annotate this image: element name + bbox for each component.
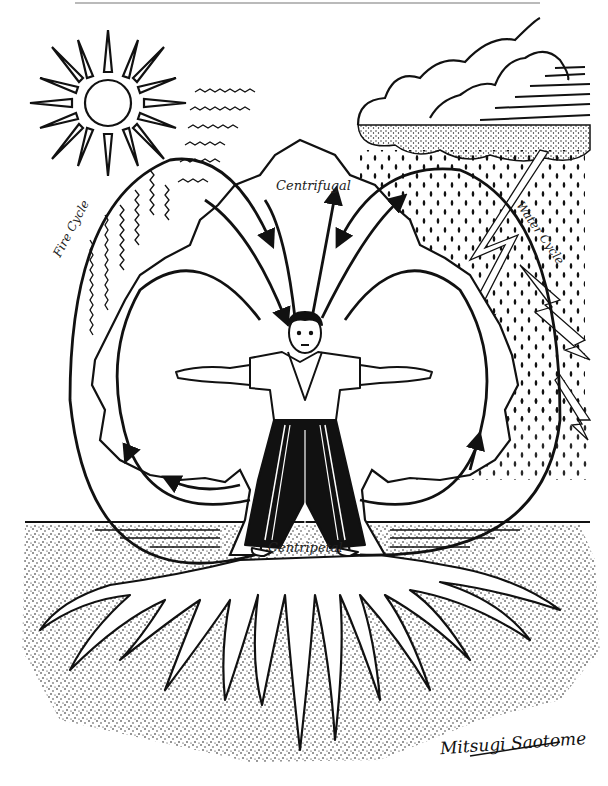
sun-icon	[30, 30, 186, 176]
label-centrifugal: Centrifugal	[276, 178, 351, 193]
label-fire-cycle: Fire Cycle	[50, 198, 92, 261]
rain-cloud	[358, 18, 590, 161]
label-centripetal: Centripetal	[268, 540, 343, 555]
illustration-canvas: Centrifugal Centripetal Fire Cycle Water…	[0, 0, 608, 786]
artist-signature: Mitsugi Saotome	[438, 728, 586, 758]
